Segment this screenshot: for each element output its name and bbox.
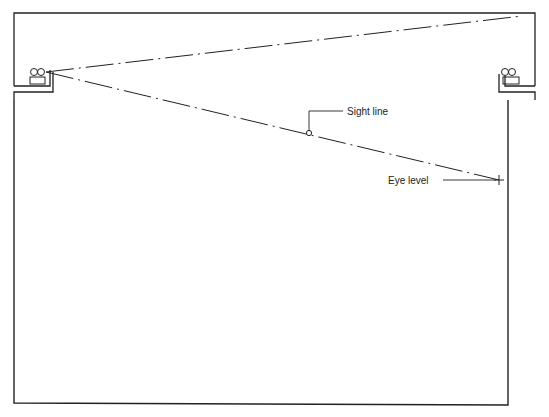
sight-line-marker xyxy=(306,130,311,135)
left-booth-ledge xyxy=(14,70,53,100)
right-booth-ledge xyxy=(499,74,535,100)
sight-line-label: Sight line xyxy=(347,106,389,117)
hall-outline xyxy=(14,100,508,405)
upper-projection-line xyxy=(46,16,522,72)
sight-line-leader xyxy=(309,111,343,131)
right-projector-icon xyxy=(502,69,520,85)
projection-sightline-diagram: Sight line Eye level xyxy=(0,0,549,417)
eye-level-label: Eye level xyxy=(388,175,429,186)
left-projector-icon xyxy=(30,69,45,85)
eye-level-cross-icon xyxy=(494,175,504,185)
sight-line xyxy=(46,72,499,180)
